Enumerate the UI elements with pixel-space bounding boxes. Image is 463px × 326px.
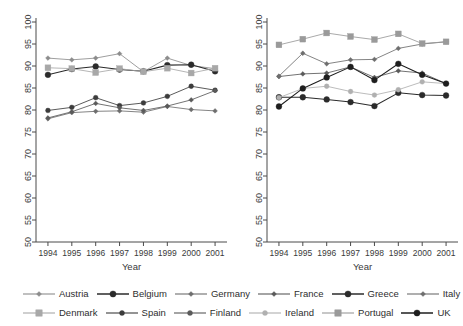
data-point	[372, 77, 378, 83]
x-axis-tick-label: 1999	[389, 248, 408, 258]
legend-entry-germany[interactable]: Germany	[174, 288, 250, 300]
legend-entry-denmark[interactable]: Denmark	[22, 307, 98, 319]
legend-row-2: DenmarkSpainFinlandIrelandPortugalUK	[0, 303, 463, 322]
data-point	[93, 95, 98, 100]
y-axis-tick-label: 70	[254, 149, 264, 159]
x-axis-tick-label: 1998	[365, 248, 384, 258]
data-point	[188, 62, 194, 68]
y-axis-tick-label: 75	[23, 127, 33, 137]
data-point	[212, 65, 218, 71]
data-point	[372, 103, 378, 109]
plot-area-left: 5055606570758085909510019941995199619971…	[0, 0, 232, 282]
x-axis-tick-label: 1999	[158, 248, 177, 258]
data-point	[165, 94, 170, 99]
data-point	[189, 84, 194, 89]
y-axis-tick-label: 100	[23, 14, 33, 29]
data-point	[348, 34, 354, 40]
data-point	[420, 291, 425, 296]
legend-marker-circle-icon	[96, 288, 130, 300]
data-point	[300, 36, 306, 42]
y-axis-tick-label: 100	[254, 14, 264, 29]
x-axis-tick-label: 1997	[341, 248, 360, 258]
data-point	[300, 86, 306, 92]
legend-entry-austria[interactable]: Austria	[22, 288, 89, 300]
data-point	[188, 70, 194, 76]
data-point	[46, 56, 51, 61]
legend-entry-finland[interactable]: Finland	[173, 307, 241, 319]
legend-label: France	[294, 288, 324, 299]
data-point	[419, 92, 425, 98]
data-point	[277, 95, 282, 100]
data-point	[263, 310, 268, 315]
data-point	[69, 66, 75, 72]
legend-entry-uk[interactable]: UK	[400, 307, 450, 319]
data-point	[276, 104, 282, 110]
chart-legend: AustriaBelgiumGermanyFranceGreeceItalyDe…	[0, 284, 463, 326]
data-point	[36, 309, 42, 315]
x-axis-tick-label: 1994	[38, 248, 57, 258]
data-point	[141, 69, 147, 75]
series-greece	[276, 90, 449, 109]
legend-label: UK	[437, 307, 450, 318]
legend-entry-belgium[interactable]: Belgium	[96, 288, 167, 300]
data-point	[396, 87, 401, 92]
data-point	[164, 65, 170, 71]
x-axis-tick-label: 2001	[437, 248, 456, 258]
y-axis-tick-label: 65	[23, 171, 33, 181]
y-axis-tick-label: 80	[254, 105, 264, 115]
data-point	[93, 101, 98, 106]
x-axis-tick-label: 2001	[206, 248, 225, 258]
data-point	[93, 64, 99, 70]
data-point	[69, 57, 74, 62]
data-point	[300, 72, 305, 77]
legend-entry-ireland[interactable]: Ireland	[248, 307, 314, 319]
legend-marker-diamond-icon	[22, 288, 56, 300]
legend-entry-spain[interactable]: Spain	[105, 307, 166, 319]
x-axis-tick-label: 1996	[317, 248, 336, 258]
series-portugal	[276, 30, 449, 48]
data-point	[414, 309, 420, 315]
y-axis-tick-label: 85	[254, 83, 264, 93]
legend-marker-square-icon	[22, 307, 56, 319]
chart-panel-right: 5055606570758085909510019941995199619971…	[231, 0, 463, 282]
data-point	[324, 75, 330, 81]
x-axis-title: Year	[353, 261, 372, 272]
legend-label: Austria	[59, 288, 89, 299]
data-point	[395, 61, 401, 67]
x-axis-tick-label: 2000	[182, 248, 201, 258]
data-point	[324, 61, 329, 66]
legend-label: Italy	[443, 288, 460, 299]
legend-marker-circle-icon	[105, 307, 139, 319]
data-point	[93, 56, 98, 61]
y-axis-tick-label: 55	[23, 215, 33, 225]
legend-marker-circle-icon	[173, 307, 207, 319]
chart-panel-left: 5055606570758085909510019941995199619971…	[0, 0, 232, 282]
data-point	[93, 109, 98, 114]
y-axis-tick-label: 70	[23, 149, 33, 159]
y-axis-tick-label: 80	[23, 105, 33, 115]
y-axis-tick-label: 55	[254, 215, 264, 225]
data-point	[324, 97, 330, 103]
data-point	[45, 72, 51, 78]
x-axis-title: Year	[122, 261, 141, 272]
data-point	[69, 105, 74, 110]
legend-entry-italy[interactable]: Italy	[406, 288, 460, 300]
data-point	[443, 81, 449, 87]
data-point	[165, 56, 170, 61]
legend-entry-portugal[interactable]: Portugal	[321, 307, 393, 319]
series-uk	[276, 61, 449, 109]
legend-marker-diamond-icon	[174, 288, 208, 300]
data-point	[165, 104, 170, 109]
series-line	[279, 42, 446, 76]
y-axis-tick-label: 60	[23, 193, 33, 203]
data-point	[396, 68, 401, 73]
legend-entry-france[interactable]: France	[257, 288, 324, 300]
legend-label: Finland	[210, 307, 241, 318]
plot-area-right: 5055606570758085909510019941995199619971…	[231, 0, 463, 282]
data-point	[344, 290, 350, 296]
legend-marker-circle-icon	[331, 288, 365, 300]
legend-entry-greece[interactable]: Greece	[331, 288, 399, 300]
legend-label: Ireland	[285, 307, 314, 318]
legend-row-1: AustriaBelgiumGermanyFranceGreeceItaly	[0, 284, 463, 303]
data-point	[45, 65, 51, 71]
